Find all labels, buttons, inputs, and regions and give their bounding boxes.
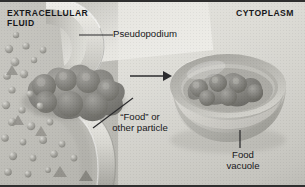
pseudopodium-label: Pseudopodium	[113, 29, 177, 40]
extracellular-fluid-label: EXTRACELLULAR FLUID	[7, 9, 88, 28]
extracellular-fluid-label-line2: FLUID	[7, 19, 88, 29]
food-particle-label-line2: other particle	[103, 123, 177, 134]
food-particle-label: “Food” or other particle	[103, 112, 177, 133]
phagocytosis-figure: EXTRACELLULAR FLUID CYTOPLASM Pseudopodi…	[0, 0, 305, 187]
food-vacuole-label-line2: vacuole	[214, 161, 272, 172]
food-vacuole-label: Food vacuole	[214, 150, 272, 171]
cytoplasm-label: CYTOPLASM	[236, 9, 294, 19]
